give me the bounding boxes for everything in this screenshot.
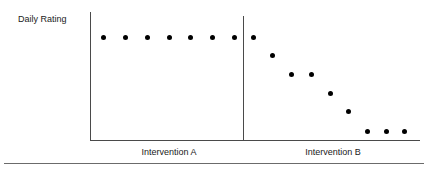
data-point: [188, 35, 193, 40]
single-case-design-chart: Daily Rating Intervention A Intervention…: [0, 0, 428, 170]
phase-b-label: Intervention B: [246, 147, 420, 158]
data-point: [232, 35, 237, 40]
data-point: [328, 91, 333, 96]
plot-area: [0, 0, 428, 170]
data-point: [101, 35, 106, 40]
data-point: [145, 35, 150, 40]
data-point: [402, 129, 407, 134]
data-point: [167, 35, 172, 40]
phase-a-label: Intervention A: [96, 147, 242, 158]
data-point: [365, 129, 370, 134]
data-point: [289, 72, 294, 77]
data-point: [346, 109, 351, 114]
data-point: [123, 35, 128, 40]
data-point: [384, 129, 389, 134]
data-point: [251, 35, 256, 40]
footer-divider: [4, 163, 424, 164]
data-point: [210, 35, 215, 40]
data-point: [309, 72, 314, 77]
data-point: [270, 53, 275, 58]
